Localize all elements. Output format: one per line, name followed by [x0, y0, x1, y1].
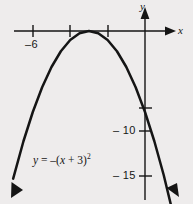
x-axis-label: x — [178, 24, 183, 36]
y-tick-label-neg10: – 10 — [113, 124, 136, 136]
equation-rhs-mid: + 3) — [65, 154, 87, 166]
x-tick-label-neg6: –6 — [25, 38, 38, 50]
parabola-figure: x y –6 – 10 – 15 y = –(x + 3)2 — [0, 0, 193, 204]
curve-left-arrowhead — [11, 182, 23, 198]
equation-equals: = — [38, 154, 50, 166]
y-tick-label-neg15: – 15 — [113, 169, 136, 181]
graph-canvas — [0, 0, 193, 204]
equation-annotation: y = –(x + 3)2 — [33, 152, 91, 166]
equation-exponent: 2 — [87, 152, 91, 161]
y-axis-label: y — [140, 0, 145, 12]
parabola-curve — [13, 31, 175, 204]
equation-rhs-prefix: –( — [50, 154, 60, 166]
x-axis-arrowhead — [165, 27, 176, 36]
